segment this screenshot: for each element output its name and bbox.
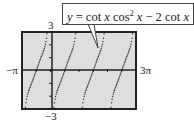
y-max-label: 3 [48,20,54,31]
x-min-label: −π [6,65,18,76]
y-min-label: −3 [45,111,57,122]
x-max-label: 3π [140,65,151,76]
equation-label: y = cot x cos2 x − 2 cot x [62,3,194,25]
